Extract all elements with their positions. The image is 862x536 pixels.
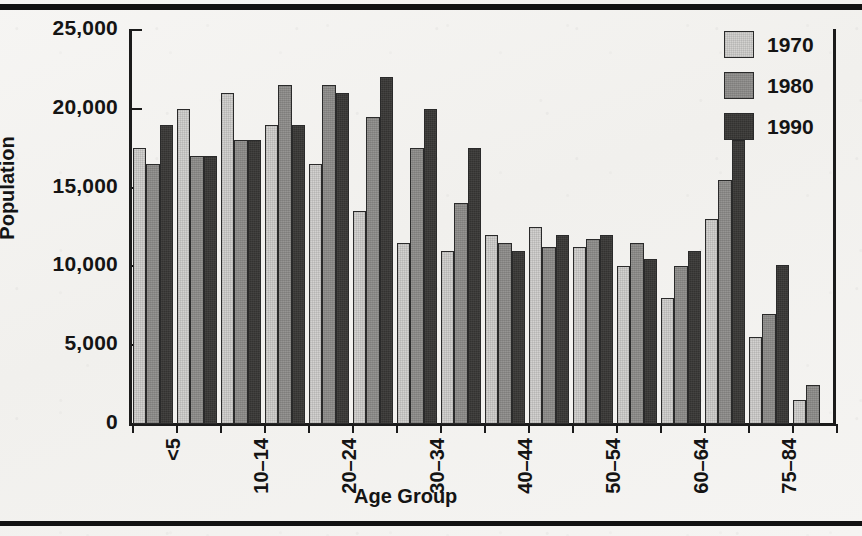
y-axis-tick-label: 10,000 — [0, 252, 118, 276]
bar-1980-20-24 — [322, 85, 335, 424]
bar-1980-85+ — [806, 385, 819, 424]
x-axis-tick-label: 50–54 — [602, 438, 625, 494]
x-axis-tick — [352, 424, 354, 433]
bar-1990-30-34 — [424, 109, 437, 424]
x-axis-tick-label: 75–84 — [778, 438, 801, 494]
bar-1990-45-49 — [556, 235, 569, 424]
legend-swatch-1970 — [724, 31, 754, 58]
y-axis-tick-label: 20,000 — [0, 95, 118, 119]
legend-item-1980: 1980 — [724, 65, 844, 106]
x-axis-tick — [836, 424, 838, 433]
bar-1990-25-29 — [380, 77, 393, 424]
bar-1990-60-64 — [688, 251, 701, 424]
bar-1970-35-39 — [441, 251, 454, 424]
bar-1990-35-39 — [468, 148, 481, 424]
bar-1970-65-74 — [705, 219, 718, 424]
x-axis-tick — [528, 424, 530, 433]
bar-1970-5-9 — [177, 109, 190, 424]
bottom-rule — [0, 521, 862, 526]
x-axis-tick — [572, 424, 574, 433]
bar-1980-45-49 — [542, 247, 555, 424]
x-axis-label: Age Group — [354, 485, 457, 508]
bar-1970-40-44 — [485, 235, 498, 424]
y-axis-tick-label: 25,000 — [0, 16, 118, 40]
bar-1980-<5 — [146, 164, 159, 424]
bar-1980-10-14 — [234, 140, 247, 424]
x-axis-tick-label: <5 — [162, 438, 185, 461]
x-axis-tick — [264, 424, 266, 433]
y-axis-tick-label: 5,000 — [0, 331, 118, 355]
bar-1970-10-14 — [221, 93, 234, 424]
x-axis-tick-label: 40–44 — [514, 438, 537, 494]
top-rule — [0, 4, 862, 10]
x-axis-tick — [660, 424, 662, 433]
bar-1990-10-14 — [248, 140, 261, 424]
x-axis-tick — [396, 424, 398, 433]
y-axis-tick-label: 0 — [0, 410, 118, 434]
bar-1980-60-64 — [674, 266, 687, 424]
legend-item-1990: 1990 — [724, 106, 844, 147]
x-axis-tick-label: 60–64 — [690, 438, 713, 494]
bar-1970-50-54 — [573, 247, 586, 424]
bar-1980-5-9 — [190, 156, 203, 424]
bar-1980-30-34 — [410, 148, 423, 424]
bar-1990-<5 — [160, 125, 173, 424]
chart-figure: 25,00020,00015,00010,0005,0000 Populatio… — [0, 0, 862, 536]
bar-1970-15-19 — [265, 125, 278, 424]
bar-1990-55-59 — [644, 259, 657, 424]
x-axis-tick — [616, 424, 618, 433]
x-axis-tick — [220, 424, 222, 433]
bar-1990-15-19 — [292, 125, 305, 424]
bar-1980-75-84 — [762, 314, 775, 424]
bar-1990-65-74 — [732, 140, 745, 424]
bar-1990-5-9 — [204, 156, 217, 424]
bar-1970-25-29 — [353, 211, 366, 424]
x-axis-tick-label: 10–14 — [250, 438, 273, 494]
legend-swatch-1990 — [724, 113, 754, 140]
x-axis-tick — [132, 424, 134, 433]
bar-1970-<5 — [133, 148, 146, 424]
bar-1970-30-34 — [397, 243, 410, 424]
x-axis-tick — [308, 424, 310, 433]
bar-1990-20-24 — [336, 93, 349, 424]
bar-1970-55-59 — [617, 266, 630, 424]
y-axis-label: Population — [0, 136, 19, 239]
bar-1980-15-19 — [278, 85, 291, 424]
bar-1980-25-29 — [366, 117, 379, 424]
legend-label: 1990 — [767, 115, 814, 139]
legend-label: 1980 — [767, 74, 814, 98]
x-axis-tick — [484, 424, 486, 433]
bar-1990-40-44 — [512, 251, 525, 424]
x-axis-tick — [704, 424, 706, 433]
legend-swatch-1980 — [724, 72, 754, 99]
chart-legend: 197019801990 — [724, 24, 844, 147]
bar-1980-35-39 — [454, 203, 467, 424]
legend-item-1970: 1970 — [724, 24, 844, 65]
legend-label: 1970 — [767, 33, 814, 57]
x-axis-tick — [792, 424, 794, 433]
bar-1980-40-44 — [498, 243, 511, 424]
bar-1990-75-84 — [776, 265, 789, 424]
bar-1970-85+ — [793, 400, 806, 424]
bar-1970-75-84 — [749, 337, 762, 424]
bar-1980-55-59 — [630, 243, 643, 424]
bar-1990-50-54 — [600, 235, 613, 424]
bar-1970-60-64 — [661, 298, 674, 424]
bar-1970-20-24 — [309, 164, 322, 424]
bar-1980-50-54 — [586, 239, 599, 424]
x-axis-tick — [176, 424, 178, 433]
bar-1970-45-49 — [529, 227, 542, 424]
x-axis-tick — [440, 424, 442, 433]
bar-1980-65-74 — [718, 180, 731, 424]
x-axis-tick — [748, 424, 750, 433]
